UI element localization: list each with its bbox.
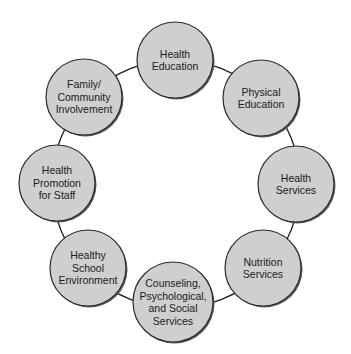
node-label-line: Services bbox=[243, 268, 283, 280]
node-healthy-school-environment: HealthySchoolEnvironment bbox=[50, 230, 128, 308]
node-label-line: Services bbox=[153, 315, 193, 327]
node-label-line: Health bbox=[281, 172, 312, 184]
node-counseling-psychological-social-services: Counseling,Psychological,and SocialServi… bbox=[133, 262, 215, 344]
node-label-line: Health bbox=[160, 48, 191, 60]
coordinated-school-health-diagram: HealthEducationPhysicalEducationHealthSe… bbox=[0, 0, 351, 354]
node-label-line: Environment bbox=[59, 274, 118, 286]
node-family-community-involvement: Family/CommunityInvolvement bbox=[46, 59, 124, 137]
node-label-line: Education bbox=[238, 98, 285, 110]
node-label-line: School bbox=[72, 262, 104, 274]
node-label-line: Family/ bbox=[67, 78, 101, 90]
node-nutrition-services: NutritionServices bbox=[225, 230, 303, 308]
node-label-line: Community bbox=[57, 91, 111, 103]
node-label-line: and Social bbox=[148, 302, 197, 314]
node-label-line: Nutrition bbox=[243, 256, 282, 268]
node-health-education: HealthEducation bbox=[137, 22, 215, 100]
node-health-promotion-for-staff: HealthPromotionfor Staff bbox=[19, 145, 97, 223]
node-label-line: Services bbox=[276, 184, 316, 196]
node-label-line: Education bbox=[152, 60, 199, 72]
node-label-line: Psychological, bbox=[139, 290, 206, 302]
node-physical-education: PhysicalEducation bbox=[223, 60, 301, 138]
component-nodes: HealthEducationPhysicalEducationHealthSe… bbox=[19, 22, 336, 344]
node-label-line: Healthy bbox=[70, 249, 106, 261]
node-label-line: Health bbox=[42, 164, 73, 176]
node-label-line: Involvement bbox=[56, 103, 113, 115]
node-health-services: HealthServices bbox=[258, 146, 336, 224]
node-label-line: Physical bbox=[241, 86, 280, 98]
node-label-line: Counseling, bbox=[145, 277, 200, 289]
node-label-line: Promotion bbox=[33, 177, 81, 189]
node-label-line: for Staff bbox=[39, 189, 76, 201]
